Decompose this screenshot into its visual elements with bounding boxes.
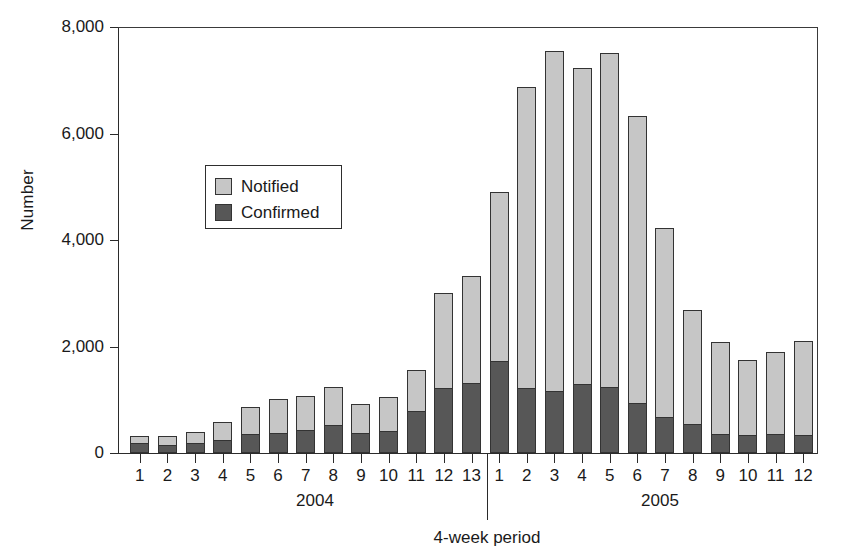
x-axis-tick-label: 4: [567, 467, 597, 484]
bar-segment-confirmed: [655, 417, 674, 453]
bar-segment-confirmed: [517, 388, 536, 453]
bar-stack: [545, 51, 564, 453]
bar-segment-notified: [269, 399, 288, 434]
x-axis-tick-label: 13: [457, 467, 487, 484]
bar-stack: [241, 407, 260, 453]
legend-item-confirmed: Confirmed: [215, 199, 329, 225]
y-axis-tick-mark: [110, 240, 118, 241]
bar-stack: [379, 397, 398, 453]
bar-stack: [766, 352, 785, 453]
bar-segment-confirmed: [241, 434, 260, 453]
x-axis-tick-mark: [720, 454, 721, 463]
legend-swatch-notified-icon: [215, 178, 232, 195]
group-label-2005: 2005: [600, 491, 720, 511]
x-axis-tick-label: 5: [235, 467, 265, 484]
bar-segment-confirmed: [490, 361, 509, 453]
bar-segment-notified: [434, 293, 453, 389]
x-axis-tick-label: 2: [152, 467, 182, 484]
bar-segment-notified: [324, 387, 343, 426]
bar-stack: [490, 192, 509, 453]
group-label-2004: 2004: [255, 491, 375, 511]
bar-stack: [434, 293, 453, 453]
y-axis-tick-mark: [110, 27, 118, 28]
bar-segment-confirmed: [711, 434, 730, 453]
bar-segment-confirmed: [683, 424, 702, 453]
x-axis-tick-label: 9: [346, 467, 376, 484]
bar-segment-notified: [241, 407, 260, 435]
y-axis-tick-label: 4,000: [30, 231, 104, 248]
x-axis-tick-mark: [140, 454, 141, 463]
bar-segment-confirmed: [186, 443, 205, 453]
x-axis-tick-label: 5: [595, 467, 625, 484]
x-axis-tick-mark: [527, 454, 528, 463]
bar-segment-notified: [379, 397, 398, 432]
x-axis-tick-mark: [748, 454, 749, 463]
bar-segment-confirmed: [324, 425, 343, 453]
y-axis-tick-mark: [110, 453, 118, 454]
bar-segment-notified: [711, 342, 730, 435]
x-axis-tick-label: 2: [512, 467, 542, 484]
bar-stack: [186, 432, 205, 453]
bar-segment-notified: [628, 116, 647, 404]
x-axis-tick-label: 11: [401, 467, 431, 484]
bar-segment-notified: [351, 404, 370, 434]
x-axis-tick-mark: [361, 454, 362, 463]
x-axis-tick-mark: [637, 454, 638, 463]
y-axis-tick-label: 8,000: [30, 18, 104, 35]
bar-segment-confirmed: [766, 434, 785, 453]
x-axis-tick-label: 12: [429, 467, 459, 484]
y-axis-tick-mark: [110, 134, 118, 135]
x-axis-tick-mark: [665, 454, 666, 463]
bar-stack: [655, 228, 674, 453]
x-axis-tick-label: 9: [705, 467, 735, 484]
plot-top-border: [118, 27, 818, 28]
x-axis-tick-mark: [472, 454, 473, 463]
x-axis-tick-label: 3: [539, 467, 569, 484]
y-axis-tick-label: 2,000: [30, 338, 104, 355]
x-axis-tick-mark: [167, 454, 168, 463]
x-axis-tick-mark: [306, 454, 307, 463]
bar-segment-notified: [600, 53, 619, 388]
plot-right-border: [817, 27, 818, 454]
x-axis-tick-label: 8: [678, 467, 708, 484]
bar-segment-confirmed: [213, 440, 232, 453]
bar-segment-confirmed: [600, 387, 619, 453]
x-axis-tick-mark: [389, 454, 390, 463]
bar-segment-confirmed: [573, 384, 592, 453]
bar-stack: [517, 87, 536, 453]
x-axis-tick-mark: [776, 454, 777, 463]
bar-segment-confirmed: [296, 430, 315, 453]
x-axis-tick-mark: [444, 454, 445, 463]
y-axis-tick-label: 0: [30, 444, 104, 461]
bar-segment-confirmed: [794, 435, 813, 453]
bar-stack: [296, 396, 315, 453]
x-axis-tick-label: 6: [263, 467, 293, 484]
bar-segment-confirmed: [158, 445, 177, 453]
x-axis-tick-label: 8: [318, 467, 348, 484]
bar-segment-confirmed: [628, 403, 647, 453]
bar-segment-notified: [738, 360, 757, 436]
bar-segment-confirmed: [407, 411, 426, 453]
bar-segment-confirmed: [545, 391, 564, 453]
bar-segment-notified: [655, 228, 674, 418]
x-axis-tick-label: 6: [622, 467, 652, 484]
bar-segment-notified: [407, 370, 426, 412]
x-axis-tick-mark: [554, 454, 555, 463]
x-axis-tick-label: 7: [291, 467, 321, 484]
x-axis-tick-mark: [195, 454, 196, 463]
x-axis-tick-mark: [582, 454, 583, 463]
x-axis-tick-mark: [803, 454, 804, 463]
x-axis-tick-label: 10: [374, 467, 404, 484]
bar-segment-confirmed: [379, 431, 398, 453]
y-axis-tick-mark: [110, 347, 118, 348]
bar-segment-confirmed: [738, 435, 757, 453]
x-axis-title: 4-week period: [397, 528, 577, 548]
x-axis-tick-label: 4: [208, 467, 238, 484]
bar-stack: [130, 436, 149, 453]
bar-segment-notified: [490, 192, 509, 362]
bar-segment-confirmed: [269, 433, 288, 453]
bar-stack: [683, 310, 702, 453]
bar-segment-notified: [766, 352, 785, 435]
bar-stack: [628, 116, 647, 453]
legend-item-notified: Notified: [215, 173, 329, 199]
